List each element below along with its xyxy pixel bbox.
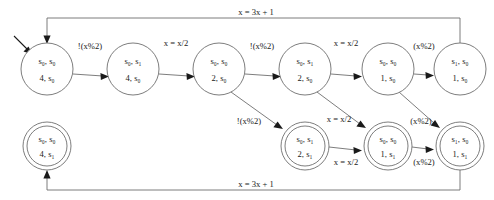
state-outline-inner [440,126,480,166]
state-outline [434,43,486,95]
transition-m4-m5: x = x/2 [329,147,362,167]
state-machine-diagram: x = 3x + 1 x = 3x + 1 !(x%2) x = x/2 [0,0,494,200]
state-label-line1: s₀, s₀ [39,56,56,66]
transition-label: x = 3x + 1 [238,7,273,17]
edge-path [73,74,103,76]
state-label-line2: 1, s₁ [381,149,396,159]
transition-label: !(x%2) [250,41,274,51]
state-label-line2: 2, s₀ [212,73,227,83]
transition-n5-m6: (x%2) [399,92,440,128]
state-label-line1: s₁, s₀ [452,56,469,66]
transition-label: x = x/2 [334,157,358,167]
arrow-head-icon [425,146,434,153]
arrow-head-icon [43,170,50,179]
arrow-head-icon [273,121,283,129]
state-node-n1[interactable]: s₀, s₀ 4, s₀ [21,43,73,95]
state-outline [107,43,159,95]
state-label-line2: 1, s₀ [381,73,396,83]
transition-label: x = x/2 [327,114,351,124]
state-outline-inner [285,126,325,166]
state-label-line2: 1, s₁ [453,149,468,159]
state-label-line2: 1, s₀ [453,73,468,83]
state-outline [21,43,73,95]
state-node-m1[interactable]: s₀, s₀ 4, s₁ [23,122,71,170]
state-outline [193,43,245,95]
transition-n2-n3: x = x/2 [159,38,195,80]
transition-label: !(x%2) [237,116,261,126]
state-label-line1: s₁, s₀ [452,134,469,144]
edge-path [331,74,356,76]
arrow-head-icon [356,121,366,129]
transition-label: (x%2) [413,157,435,167]
state-node-n5[interactable]: s₀, s₀ 1, s₀ [362,43,414,95]
state-node-m6[interactable]: s₁, s₀ 1, s₁ [436,122,484,170]
state-outline-inner [368,126,408,166]
edge-path [159,74,189,76]
edge-path [47,18,460,43]
transition-n6-n1: x = 3x + 1 [43,7,460,44]
state-label-line2: 4, s₁ [40,149,55,159]
transition-n5-n6: (x%2) [413,41,435,79]
state-label-line2: 2, s₀ [298,73,313,83]
arrow-head-icon [353,73,362,80]
arrow-head-icon [425,72,434,79]
state-label-line2: 4, s₀ [40,73,55,83]
transition-label: x = x/2 [164,38,188,48]
state-label-line2: 4, s₀ [126,73,141,83]
transition-n4-m5: x = x/2 [317,92,366,128]
transition-n3-m4: !(x%2) [231,92,283,129]
transition-label: (x%2) [410,116,432,126]
state-node-n3[interactable]: s₀, s₀ 2, s₀ [193,43,245,95]
state-node-n6[interactable]: s₁, s₀ 1, s₀ [434,43,486,95]
transition-label: !(x%2) [78,41,102,51]
state-label-line1: s₀, s₁ [125,56,142,66]
state-label-line1: s₀, s₀ [39,134,56,144]
state-label-line1: s₀, s₁ [297,56,314,66]
state-node-n2[interactable]: s₀, s₁ 4, s₀ [107,43,159,95]
transition-label: x = 3x + 1 [238,179,273,189]
diagram-canvas: x = 3x + 1 x = 3x + 1 !(x%2) x = x/2 [0,0,494,200]
state-label-line1: s₀, s₀ [380,56,397,66]
edge-path [245,74,275,76]
transition-n1-n2: !(x%2) [73,41,109,80]
edge-path [329,147,356,150]
transition-label: (x%2) [413,41,435,51]
state-node-m4[interactable]: s₀, s₁ 2, s₁ [281,122,329,170]
state-label-line2: 2, s₁ [298,149,313,159]
transition-n4-n5: x = x/2 [331,38,362,80]
transition-label: x = x/2 [334,38,358,48]
state-outline-inner [27,126,67,166]
state-outline [279,43,331,95]
transition-m6-m1: x = 3x + 1 [43,170,460,190]
transition-m5-m6: (x%2) [412,146,435,167]
state-node-m5[interactable]: s₀, s₀ 1, s₁ [364,122,412,170]
state-label-line1: s₀, s₁ [297,134,314,144]
state-label-line1: s₀, s₀ [380,134,397,144]
state-outline [362,43,414,95]
state-label-line1: s₀, s₀ [211,56,228,66]
arrow-head-icon [353,147,362,154]
state-node-n4[interactable]: s₀, s₁ 2, s₀ [279,43,331,95]
transition-n3-n4: !(x%2) [245,41,281,80]
